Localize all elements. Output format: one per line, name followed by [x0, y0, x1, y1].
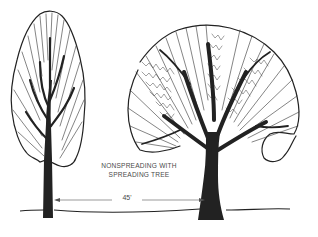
- caption-line-1: NONSPREADING WITH: [84, 162, 194, 171]
- illustration-svg: [0, 0, 318, 237]
- spreading-tree: [128, 25, 299, 220]
- ground-line: [20, 209, 290, 212]
- tree-spacing-illustration: NONSPREADING WITH SPREADING TREE 45': [0, 0, 318, 237]
- spacing-label: 45': [112, 194, 142, 201]
- nonspreading-trunk: [43, 80, 53, 218]
- nonspreading-tree: [11, 11, 85, 218]
- dimension-arrow-left: [54, 198, 60, 202]
- illustration-caption: NONSPREADING WITH SPREADING TREE: [84, 162, 194, 179]
- caption-line-2: SPREADING TREE: [84, 171, 194, 180]
